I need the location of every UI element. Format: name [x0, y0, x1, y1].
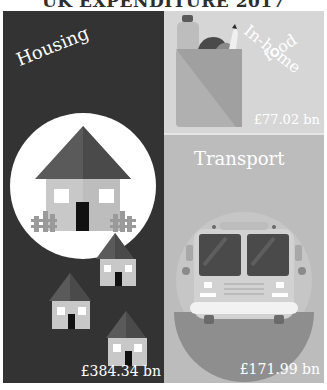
housing-panel: Housing	[3, 11, 164, 383]
housing-value: £384.34 bn	[81, 363, 161, 379]
house-icon	[3, 11, 164, 383]
food-panel: In-home food £77.02 bn	[164, 11, 324, 133]
bus-icon	[164, 135, 324, 383]
page-title: UK EXPENDITURE 2017	[0, 0, 327, 11]
food-value: £77.02 bn	[254, 112, 320, 127]
transport-value: £171.99 bn	[240, 361, 320, 377]
transport-panel: Transport £171.99 bn	[164, 135, 324, 383]
